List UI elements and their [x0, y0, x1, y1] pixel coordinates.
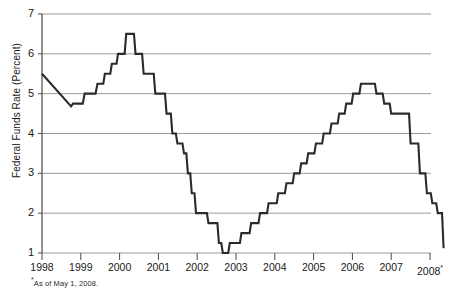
footnote-text: As of May 1, 2008. — [34, 279, 98, 288]
y-tick-label-4: 4 — [18, 128, 34, 139]
x-tick-label-text: 2001 — [147, 261, 170, 273]
y-tick-label-2: 2 — [18, 207, 34, 218]
x-tick-label-text: 2008 — [417, 265, 440, 277]
chart-plot-area — [0, 0, 459, 297]
x-tick-label-text: 2003 — [224, 261, 247, 273]
x-tick-label-text: 2000 — [108, 261, 131, 273]
x-tick-label-text: 1998 — [30, 261, 53, 273]
x-tick-label-2000: 2000 — [98, 262, 142, 273]
x-tick-label-2004: 2004 — [253, 262, 297, 273]
x-tick-label-text: 2007 — [380, 261, 403, 273]
data-series-federal-funds-rate — [42, 34, 444, 253]
x-tick-label-text: 2004 — [263, 261, 286, 273]
chart-footnote: *As of May 1, 2008. — [31, 276, 98, 288]
x-tick-label-text: 1999 — [69, 261, 92, 273]
x-tick-superscript-marker: * — [440, 264, 443, 271]
y-tick-label-3: 3 — [18, 167, 34, 178]
federal-funds-rate-chart: Federal Funds Rate (Percent) 1234567 199… — [0, 0, 459, 297]
x-tick-label-2008: 2008* — [408, 262, 452, 277]
x-tick-label-2007: 2007 — [369, 262, 413, 273]
x-tick-label-2006: 2006 — [330, 262, 374, 273]
y-tick-label-1: 1 — [18, 247, 34, 258]
x-tick-label-2005: 2005 — [292, 262, 336, 273]
y-tick-label-6: 6 — [18, 48, 34, 59]
x-tick-label-text: 2005 — [302, 261, 325, 273]
x-tick-label-text: 2002 — [186, 261, 209, 273]
x-tick-label-2002: 2002 — [175, 262, 219, 273]
x-tick-label-2001: 2001 — [136, 262, 180, 273]
x-tick-label-1998: 1998 — [20, 262, 64, 273]
x-tick-label-1999: 1999 — [59, 262, 103, 273]
x-tick-label-2003: 2003 — [214, 262, 258, 273]
y-tick-label-7: 7 — [18, 8, 34, 19]
y-tick-label-5: 5 — [18, 88, 34, 99]
x-tick-label-text: 2006 — [341, 261, 364, 273]
